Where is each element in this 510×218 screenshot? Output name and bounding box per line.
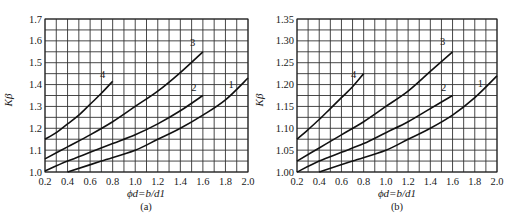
curve-label-4: 4 xyxy=(351,69,357,80)
x-tick-label: 0.8 xyxy=(106,176,119,187)
x-tick-label: 1.4 xyxy=(174,176,188,187)
y-tick-label: 1.35 xyxy=(276,14,294,25)
y-tick-label: 1.3 xyxy=(29,101,42,112)
curve-label-1: 1 xyxy=(228,79,233,90)
x-axis-label: ϕd=b/d1 xyxy=(378,187,416,199)
y-axis-label: Kβ xyxy=(253,93,265,107)
panel-label: (a) xyxy=(140,201,152,213)
x-tick-label: 1.2 xyxy=(151,176,164,187)
x-tick-label: 1.6 xyxy=(196,176,209,187)
x-tick-label: 1.2 xyxy=(402,176,415,187)
curve-label-2: 2 xyxy=(191,82,196,93)
y-tick-label: 1.5 xyxy=(29,57,42,68)
y-axis-label: Kβ xyxy=(2,93,14,107)
y-tick-label: 1.15 xyxy=(276,101,294,112)
y-tick-label: 1.25 xyxy=(276,57,294,68)
x-axis-ticks: 0.20.40.60.81.01.21.41.61.82.0 xyxy=(290,176,503,187)
curve-label-3: 3 xyxy=(440,36,445,47)
y-tick-label: 1.10 xyxy=(276,123,294,134)
x-tick-label: 0.6 xyxy=(335,176,348,187)
chart-canvas: 1.01.11.21.31.41.51.61.70.20.40.60.81.01… xyxy=(0,0,510,218)
y-axis-ticks: 1.01.11.21.31.41.51.61.7 xyxy=(29,14,43,178)
curve-label-2: 2 xyxy=(441,82,446,93)
y-tick-label: 1.05 xyxy=(276,145,294,156)
curve-label-4: 4 xyxy=(100,69,106,80)
x-tick-label: 0.8 xyxy=(357,176,370,187)
curve-label-3: 3 xyxy=(190,37,195,48)
y-tick-label: 1.6 xyxy=(29,35,42,46)
chart-panel-b: 1.001.051.101.151.201.251.301.350.20.40.… xyxy=(253,14,504,214)
panel-label: (b) xyxy=(391,201,404,213)
x-tick-label: 1.0 xyxy=(379,176,392,187)
y-axis-ticks: 1.001.051.101.151.201.251.301.35 xyxy=(276,14,294,178)
y-tick-label: 1.30 xyxy=(276,35,294,46)
x-axis-label: ϕd=b/d1 xyxy=(127,187,165,199)
y-tick-label: 1.2 xyxy=(29,123,42,134)
x-axis-ticks: 0.20.40.60.81.01.21.41.61.82.0 xyxy=(38,176,254,187)
x-tick-label: 0.4 xyxy=(61,176,75,187)
y-tick-label: 1.4 xyxy=(29,79,43,90)
grid-lines xyxy=(297,19,497,172)
y-tick-label: 1.20 xyxy=(276,79,294,90)
x-tick-label: 1.8 xyxy=(219,176,232,187)
x-tick-label: 0.4 xyxy=(313,176,327,187)
x-tick-label: 2.0 xyxy=(241,176,254,187)
x-tick-label: 2.0 xyxy=(490,176,503,187)
x-tick-label: 0.2 xyxy=(290,176,303,187)
curve-label-1: 1 xyxy=(478,78,483,89)
x-tick-label: 1.4 xyxy=(424,176,438,187)
chart-panel-a: 1.01.11.21.31.41.51.61.70.20.40.60.81.01… xyxy=(2,14,255,214)
x-tick-label: 0.2 xyxy=(38,176,51,187)
x-tick-label: 1.0 xyxy=(129,176,142,187)
x-tick-label: 0.6 xyxy=(84,176,97,187)
grid-lines xyxy=(45,19,248,172)
y-tick-label: 1.7 xyxy=(29,14,42,25)
x-tick-label: 1.8 xyxy=(468,176,481,187)
y-tick-label: 1.1 xyxy=(29,145,42,156)
x-tick-label: 1.6 xyxy=(446,176,459,187)
